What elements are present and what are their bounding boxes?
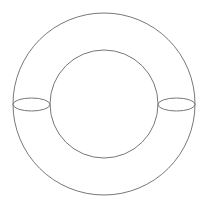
right-meridian-ellipse [158,98,195,111]
outer-circle [13,13,195,195]
left-meridian-ellipse [13,98,50,111]
torus-diagram [0,0,205,207]
inner-circle [50,50,158,158]
